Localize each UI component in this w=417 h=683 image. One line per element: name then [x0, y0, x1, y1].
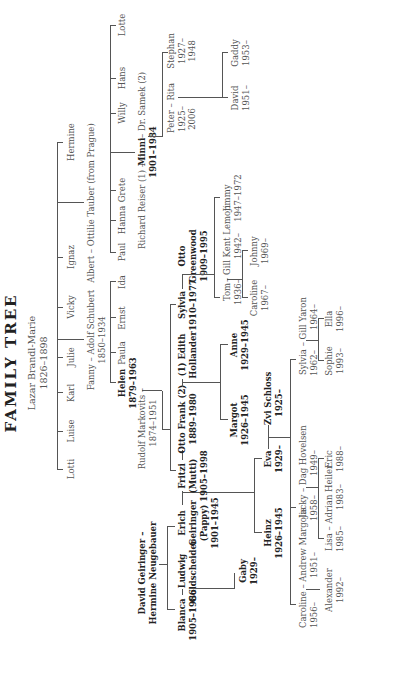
person-sylvia-years: 1910–1977 [188, 279, 198, 331]
person-margot: Margot [229, 403, 239, 438]
tick [57, 257, 63, 258]
person-minni: Minni [137, 138, 147, 166]
person-ernst: Ernst [117, 306, 127, 330]
person-karl: Karl [66, 384, 76, 402]
person-erich-l3: (Pappy) [199, 505, 209, 542]
person-jimmy: Jimmy [222, 184, 232, 211]
family-tree-diagram: FAMILY TREE Lazar Brandl-Marie 1826–1898… [0, 0, 417, 683]
greenwood-children-stem [182, 274, 214, 275]
person-caroline-lemon: Caroline [249, 280, 259, 317]
yaron-children-stem [306, 340, 318, 341]
peter-children-stem [178, 97, 222, 98]
yaron-children-bar [318, 319, 319, 361]
person-ida: Ida [117, 275, 127, 289]
gen1-bar [57, 142, 58, 470]
marriage-line [182, 589, 183, 595]
person-lotte: Lotte [117, 14, 127, 37]
person-gaddy: Gaddy [230, 39, 240, 67]
tick [170, 304, 176, 305]
person-caroline-lemon-years: 1967– [260, 285, 270, 311]
person-stephan: Stephan [166, 33, 176, 69]
tick [110, 25, 116, 26]
geiringer-stem [159, 564, 167, 565]
tick [290, 604, 296, 605]
peter-children-bar [222, 53, 223, 98]
fanny-stem [57, 339, 84, 340]
person-fritzi-l2: (Mutti) [188, 459, 198, 494]
blanca-children-stem [190, 588, 234, 589]
helen-children-bar [162, 391, 163, 430]
minni-children-bar [162, 53, 163, 137]
person-paula: Paula [117, 341, 127, 365]
person-ignaz: Ignaz [66, 245, 76, 269]
person-gill-kent-lemon: – Gill Kent Lemon [222, 205, 232, 282]
tick [57, 392, 63, 393]
adrian-years: 1983– [335, 484, 345, 510]
person-gaby: Gaby [238, 559, 248, 583]
tick [110, 382, 116, 383]
tick [214, 297, 220, 298]
spouse-dr-samek: – Dr. Samek (2) [137, 72, 147, 138]
geiringer-parents-line1: David Geiringer – [137, 532, 147, 615]
person-stephan-years: 1927– [177, 38, 187, 64]
person-erich-l1: Erich [177, 510, 187, 536]
tick [222, 52, 228, 53]
caroline-years: 1956– [309, 602, 319, 628]
person-otto-frank-years: 1889–1980 [188, 393, 198, 445]
tick [57, 469, 63, 470]
tick [234, 573, 235, 589]
tick [167, 609, 175, 610]
person-hermine: Hermine [66, 123, 76, 161]
tick [290, 359, 296, 360]
person-peter-years2: 2006 [187, 108, 197, 130]
person-stephan-years2: 1948 [187, 40, 197, 62]
person-vicky: Vicky [66, 295, 76, 318]
person-eric: Eric [324, 450, 334, 468]
minni-stem [110, 152, 135, 153]
person-anne-years: 1929–1945 [240, 319, 250, 371]
root-name: Lazar Brandl-Marie [27, 316, 37, 410]
lemon-children-stem [227, 279, 242, 280]
person-edith-l1: (1) Edith [177, 334, 187, 377]
lemon-children-bar [242, 251, 243, 298]
person-willy: Willy [117, 102, 127, 124]
marriage-line [182, 275, 183, 289]
schloss-children-bar [290, 360, 291, 605]
tick [242, 297, 248, 298]
person-gaddy-years: 1953– [241, 40, 251, 66]
person-johnny-years: 1969– [260, 238, 270, 264]
person-johnny: Johnny [249, 236, 259, 266]
tick [170, 470, 176, 471]
person-julie: Julie [66, 347, 76, 366]
tick [110, 281, 116, 282]
helen-children-bar2 [170, 305, 171, 471]
margolis-children-stem [306, 589, 320, 590]
fritzi-children-bar [254, 459, 255, 533]
tick [220, 344, 228, 345]
person-zvi-schloss: Zvi Schloss [263, 372, 273, 425]
albert-children-bar [110, 26, 111, 253]
frank-children-bar [220, 345, 221, 420]
couple-jacky-dag: Jacky – Dag Hovelsen [298, 425, 308, 518]
hovelsen-children-bar [318, 459, 319, 539]
person-sophie-years: 1993– [335, 348, 345, 374]
tick [242, 250, 248, 251]
person-eva-years: 1929– [274, 445, 284, 473]
schloss-children-stem [268, 437, 290, 438]
person-helen: Helen [117, 369, 127, 397]
andrew-years: 1951– [309, 552, 319, 578]
couple-fanny-years: 1850–1934 [97, 316, 107, 364]
person-luise: Luise [66, 419, 76, 442]
person-peter-rita: Peter – Rita [166, 83, 176, 133]
tick [110, 220, 116, 221]
tick [110, 317, 116, 318]
marriage-line [182, 379, 183, 387]
tick [110, 190, 116, 191]
tick [110, 252, 116, 253]
tick [162, 429, 170, 430]
person-minni-years: 1901–1984 [148, 126, 158, 178]
person-zvi-years: 1925– [274, 389, 284, 417]
person-sophie: Sophie [324, 346, 334, 376]
couple-lisa-adrian: Lisa – Adrian Heiler [324, 465, 334, 551]
greenwood-children-bar [214, 198, 215, 298]
